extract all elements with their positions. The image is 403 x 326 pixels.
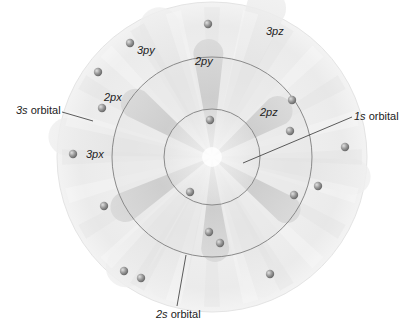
electron (100, 202, 108, 210)
electron (98, 104, 106, 112)
electron (286, 127, 294, 135)
electron (341, 143, 349, 151)
label-3s-orbital: 3s orbital (16, 104, 61, 116)
label-3s-italic: 3s (16, 104, 28, 116)
orbital-diagram: 3s orbital 1s orbital 2s orbital 2px 2py… (0, 0, 403, 326)
label-3py: 3py (137, 44, 156, 56)
label-2s-italic: 2s (155, 308, 168, 320)
electron (266, 270, 274, 278)
electron (186, 188, 194, 196)
electron (288, 96, 296, 104)
label-3px: 3px (86, 148, 104, 160)
label-2px: 2px (103, 91, 122, 103)
electron (204, 20, 212, 28)
electron (94, 68, 102, 76)
label-2s-rest: orbital (168, 308, 201, 320)
nucleus (202, 147, 222, 167)
electron (290, 191, 298, 199)
label-2pz: 2pz (259, 106, 278, 118)
label-1s-rest: orbital (366, 110, 399, 122)
label-1s-orbital: 1s orbital (354, 110, 399, 122)
electron (314, 182, 322, 190)
label-2s-orbital: 2s orbital (155, 308, 201, 320)
label-3s-rest: orbital (28, 104, 61, 116)
electron (126, 39, 134, 47)
electron (137, 274, 145, 282)
electron (205, 228, 213, 236)
label-2py: 2py (194, 55, 214, 67)
electron (69, 150, 77, 158)
electron (120, 267, 128, 275)
label-1s-italic: 1s (354, 110, 366, 122)
electron (216, 239, 224, 247)
electron (206, 116, 214, 124)
label-3pz: 3pz (266, 25, 284, 37)
